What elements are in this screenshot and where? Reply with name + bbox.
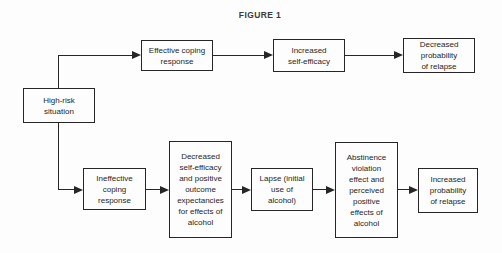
connector-highrisk-to-effective-coping <box>58 55 133 57</box>
arrowhead-icon <box>132 51 141 59</box>
arrowhead-icon <box>326 186 335 194</box>
connector-highrisk-up-riser <box>58 55 60 89</box>
arrowhead-icon <box>264 51 273 59</box>
connector-highrisk-down-riser <box>58 123 60 191</box>
node-ineffective-coping-response: Ineffective coping response <box>83 168 146 210</box>
node-decreased-self-efficacy-expectancies-label: Decreased self-efficacy and positive out… <box>176 151 225 228</box>
node-abstinence-violation-effect-label: Abstinence violation effect and perceive… <box>346 152 388 229</box>
node-decreased-probability-of-relapse: Decreased probability of relapse <box>403 38 475 73</box>
arrowhead-icon <box>242 186 251 194</box>
flowchart-figure: FIGURE 1 High-risk situation Effective c… <box>0 0 502 253</box>
figure-title: FIGURE 1 <box>18 10 502 20</box>
node-increased-self-efficacy-label: Increased self-efficacy <box>287 45 331 67</box>
node-effective-coping-response: Effective coping response <box>141 40 213 71</box>
connector-ineffective-to-decreased <box>146 189 161 191</box>
node-increased-probability-of-relapse-label: Increased probability of relapse <box>429 174 467 207</box>
node-lapse-initial-use: Lapse (initial use of alcohol) <box>251 168 313 211</box>
node-lapse-initial-use-label: Lapse (initial use of alcohol) <box>259 173 306 206</box>
connector-lapse-to-abstinence <box>313 189 327 191</box>
node-decreased-self-efficacy-expectancies: Decreased self-efficacy and positive out… <box>169 141 232 238</box>
arrowhead-icon <box>160 186 169 194</box>
node-effective-coping-response-label: Effective coping response <box>148 45 206 67</box>
node-ineffective-coping-response-label: Ineffective coping response <box>95 173 133 206</box>
connector-decreased-to-lapse <box>232 189 243 191</box>
node-abstinence-violation-effect: Abstinence violation effect and perceive… <box>335 142 398 238</box>
arrowhead-icon <box>394 51 403 59</box>
node-increased-self-efficacy: Increased self-efficacy <box>273 39 345 72</box>
node-increased-probability-of-relapse: Increased probability of relapse <box>418 168 478 213</box>
connector-abstinence-to-increasedprob <box>398 189 410 191</box>
node-high-risk-situation-label: High-risk situation <box>42 95 76 117</box>
connector-highrisk-to-ineffective-coping <box>58 189 75 191</box>
arrowhead-icon <box>409 186 418 194</box>
connector-selfefficacy-to-decreasedprob <box>344 55 394 57</box>
node-high-risk-situation: High-risk situation <box>23 88 95 123</box>
node-decreased-probability-of-relapse-label: Decreased probability of relapse <box>419 39 460 72</box>
arrowhead-icon <box>74 186 83 194</box>
connector-effective-to-selfefficacy <box>213 55 265 57</box>
